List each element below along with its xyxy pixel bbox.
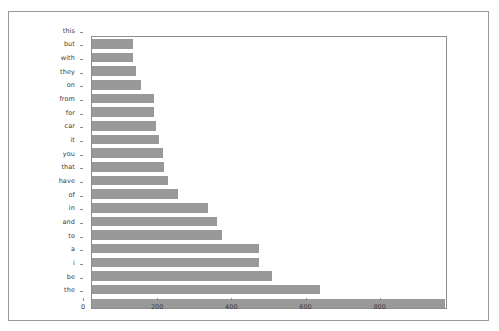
y-axis-tick-label: i [9,260,75,267]
bar [92,189,178,199]
bar [92,299,445,309]
x-axis-tick-mark [157,298,158,301]
bar-row [92,269,446,283]
bar-row [92,51,446,65]
bar [92,176,168,186]
y-axis-tick-mark [80,59,83,60]
bar-row [92,174,446,188]
y-axis-tick-label: that [9,164,75,171]
y-axis-tick-mark [80,141,83,142]
y-axis-tick-label: they [9,69,75,76]
bar-row [92,187,446,201]
bar [92,244,259,254]
bar [92,121,156,131]
bar [92,66,136,76]
y-axis-tick-mark [80,127,83,128]
y-axis-tick-label: the [9,287,75,294]
bar [92,217,217,227]
y-axis-tick-label: for [9,110,75,117]
y-axis-tick-label: a [9,246,75,253]
bar [92,258,259,268]
bar-row [92,105,446,119]
x-axis-tick-label: 800 [373,303,385,311]
x-axis-tick-label: 0 [81,303,85,311]
bar-row [92,228,446,242]
bar [92,94,154,104]
y-axis-tick-mark [80,223,83,224]
bar-row [92,283,446,297]
bar [92,230,222,240]
y-axis-tick-label: to [9,233,75,240]
y-axis-tick-label: be [9,274,75,281]
y-axis-tick-mark [80,32,83,33]
bar-row [92,214,446,228]
y-axis-tick-label: car [9,123,75,130]
y-axis-tick-mark [80,196,83,197]
y-axis-tick-label: and [9,219,75,226]
y-axis-tick-mark [80,250,83,251]
bar [92,203,208,213]
bar [92,39,133,49]
y-axis-tick-mark [80,155,83,156]
x-axis-tick-label: 600 [299,303,311,311]
bar-row [92,296,446,310]
bar [92,148,163,158]
bar [92,107,154,117]
bar-row [92,37,446,51]
bar-row [92,78,446,92]
x-axis-tick-mark [380,298,381,301]
y-axis-tick-label: have [9,178,75,185]
y-axis-tick-mark [80,73,83,74]
y-axis-tick-mark [80,209,83,210]
plot-area [91,36,447,309]
bar-row [92,133,446,147]
bar-row [92,92,446,106]
y-axis-tick-mark [80,86,83,87]
bar-row [92,242,446,256]
y-axis-tick-label: it [9,137,75,144]
bar [92,285,320,295]
y-axis-tick-label: but [9,41,75,48]
y-axis-tick-mark [80,182,83,183]
y-axis-tick-label: with [9,55,75,62]
x-axis-tick-mark [231,298,232,301]
y-axis-tick-label: in [9,205,75,212]
x-axis-tick-mark [306,298,307,301]
bars-layer [92,37,446,308]
y-axis-tick-mark [80,237,83,238]
bar [92,162,164,172]
chart-screenshot: thisbutwiththeyonfromforcarityouthathave… [0,0,499,331]
bar-row [92,64,446,78]
bar-row [92,160,446,174]
bar [92,271,272,281]
bar-row [92,255,446,269]
y-axis-tick-mark [80,278,83,279]
bar-row [92,119,446,133]
x-axis-tick-label: 200 [151,303,163,311]
bar-row [92,146,446,160]
y-axis-tick-mark [80,100,83,101]
bar-row [92,201,446,215]
y-axis-tick-mark [80,168,83,169]
y-axis-tick-mark [80,45,83,46]
bar [92,135,159,145]
x-axis-tick-mark [83,298,84,301]
y-axis-tick-mark [80,291,83,292]
y-axis-tick-label: from [9,96,75,103]
bar [92,80,141,90]
y-axis-tick-label: this [9,28,75,35]
y-axis-tick-mark [80,264,83,265]
y-axis-tick-label: you [9,151,75,158]
bar [92,53,133,63]
y-axis-tick-label: on [9,82,75,89]
x-axis-tick-label: 400 [225,303,237,311]
y-axis-tick-label: of [9,192,75,199]
y-axis-tick-mark [80,114,83,115]
figure-frame: thisbutwiththeyonfromforcarityouthathave… [8,11,489,321]
